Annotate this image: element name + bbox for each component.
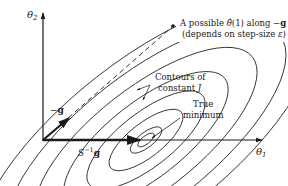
- theta1-axis-label: θ1: [256, 146, 267, 159]
- contours-label-line1: Contours of: [155, 72, 206, 82]
- theta2-axis-label: θ2: [27, 9, 38, 22]
- contours-label-line2: constant J: [158, 83, 202, 93]
- neg-gradient-label: −g: [50, 105, 65, 115]
- true-minimum-label-line1: True: [193, 99, 213, 109]
- contour-diagram: θ2 θ1 A possible θ̂(1) along −g (depends…: [0, 0, 288, 186]
- possible-estimate-label-line2: (depends on step-size ε): [182, 29, 286, 39]
- newton-direction-label: S−1g: [78, 146, 101, 158]
- possible-estimate-point: [171, 24, 175, 28]
- true-minimum-label-line2: minimum: [183, 110, 224, 120]
- true-minimum-pointer: [152, 118, 180, 138]
- possible-estimate-label-line1: A possible θ̂(1) along −g: [179, 18, 286, 28]
